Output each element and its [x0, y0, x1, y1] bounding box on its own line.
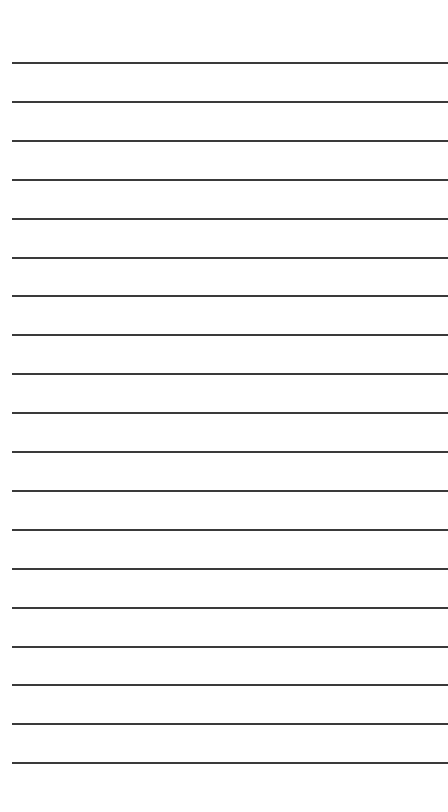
ruled-line	[12, 295, 448, 297]
ruled-line	[12, 646, 448, 648]
ruled-line	[12, 334, 448, 336]
ruled-line	[12, 451, 448, 453]
ruled-line	[12, 490, 448, 492]
ruled-line	[12, 140, 448, 142]
ruled-line	[12, 218, 448, 220]
ruled-line	[12, 723, 448, 725]
ruled-line	[12, 257, 448, 259]
ruled-line	[12, 62, 448, 64]
ruled-line	[12, 762, 448, 764]
ruled-line	[12, 412, 448, 414]
ruled-line	[12, 373, 448, 375]
ruled-line	[12, 568, 448, 570]
ruled-line	[12, 529, 448, 531]
ruled-line	[12, 684, 448, 686]
ruled-line	[12, 179, 448, 181]
lined-paper-page	[0, 0, 448, 812]
ruled-line	[12, 607, 448, 609]
ruled-line	[12, 101, 448, 103]
